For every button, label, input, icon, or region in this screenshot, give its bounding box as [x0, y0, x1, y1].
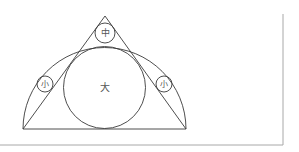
- small-circle-right-label: 小: [160, 80, 168, 89]
- large-circle-label: 大: [100, 81, 110, 93]
- small-circle-left-label: 小: [41, 80, 49, 89]
- medium-circle-label: 中: [101, 27, 110, 38]
- geometry-diagram: 大 中 小 小: [0, 0, 299, 152]
